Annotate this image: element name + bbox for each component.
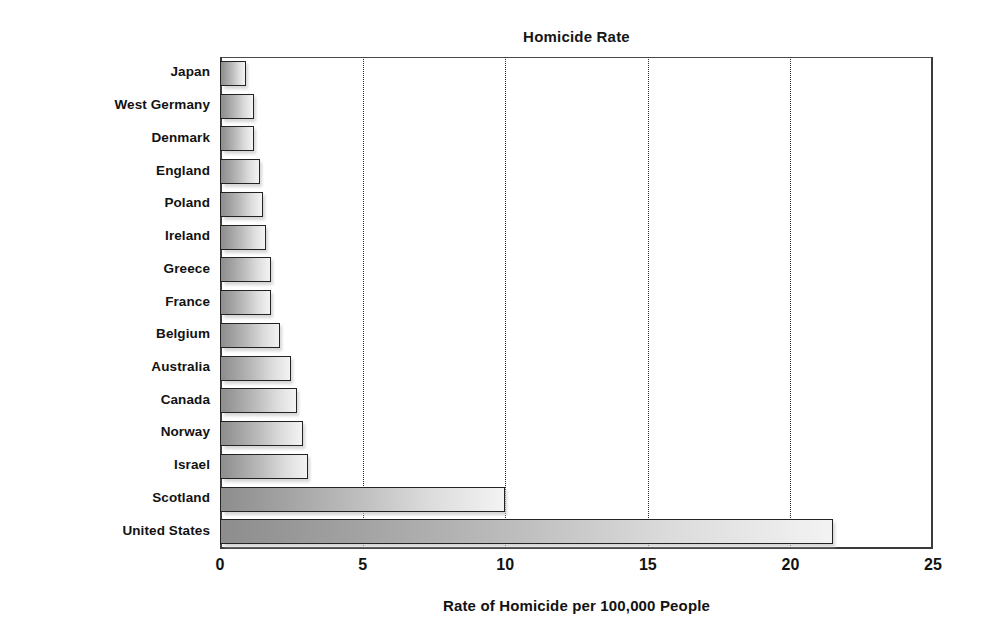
plot-area (220, 57, 933, 548)
bar-row[interactable] (220, 155, 933, 188)
category-label: Israel (0, 457, 210, 472)
category-label: Australia (0, 359, 210, 374)
category-label: Greece (0, 261, 210, 276)
bar[interactable] (220, 388, 297, 413)
bar[interactable] (220, 290, 271, 315)
bar[interactable] (220, 519, 833, 544)
x-tick-label: 15 (618, 556, 678, 574)
bar-row[interactable] (220, 90, 933, 123)
x-tick-label: 25 (903, 556, 963, 574)
bar-row[interactable] (220, 417, 933, 450)
category-label: Japan (0, 64, 210, 79)
category-label: Norway (0, 424, 210, 439)
category-label: Denmark (0, 130, 210, 145)
bar-row[interactable] (220, 515, 933, 548)
category-label: Ireland (0, 228, 210, 243)
homicide-rate-chart: Homicide Rate JapanWest GermanyDenmarkEn… (0, 0, 1000, 637)
bar-row[interactable] (220, 483, 933, 516)
bar-row[interactable] (220, 286, 933, 319)
x-tick-label: 10 (475, 556, 535, 574)
bar[interactable] (220, 323, 280, 348)
category-label: England (0, 163, 210, 178)
bar-row[interactable] (220, 221, 933, 254)
bar[interactable] (220, 356, 291, 381)
chart-title: Homicide Rate (220, 28, 933, 45)
x-tick-label: 0 (190, 556, 250, 574)
bar-row[interactable] (220, 57, 933, 90)
bar-row[interactable] (220, 253, 933, 286)
bar-row[interactable] (220, 450, 933, 483)
bar-row[interactable] (220, 352, 933, 385)
bar-row[interactable] (220, 319, 933, 352)
bar[interactable] (220, 94, 254, 119)
bar[interactable] (220, 454, 308, 479)
bar[interactable] (220, 126, 254, 151)
bar[interactable] (220, 61, 246, 86)
bar[interactable] (220, 487, 505, 512)
bar[interactable] (220, 192, 263, 217)
x-tick-label: 5 (333, 556, 393, 574)
bar-row[interactable] (220, 122, 933, 155)
bar-row[interactable] (220, 384, 933, 417)
category-label: France (0, 294, 210, 309)
x-axis-title: Rate of Homicide per 100,000 People (220, 597, 933, 614)
bar[interactable] (220, 421, 303, 446)
bar[interactable] (220, 159, 260, 184)
category-label: West Germany (0, 97, 210, 112)
category-label: Scotland (0, 490, 210, 505)
category-label: Belgium (0, 326, 210, 341)
bar-row[interactable] (220, 188, 933, 221)
category-label: Canada (0, 392, 210, 407)
category-label: Poland (0, 195, 210, 210)
x-tick-label: 20 (760, 556, 820, 574)
category-label: United States (0, 523, 210, 538)
bar[interactable] (220, 257, 271, 282)
bar[interactable] (220, 225, 266, 250)
